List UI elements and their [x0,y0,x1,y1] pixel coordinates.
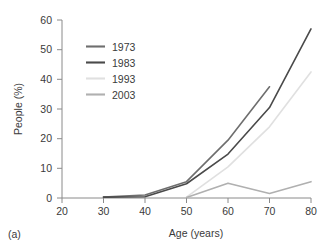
y-tick-0: 0 [46,192,62,204]
legend-item-1983: 1983 [86,57,136,69]
legend-label: 1993 [112,73,136,85]
x-tick-label: 80 [305,205,317,217]
x-tick-50: 50 [181,198,193,217]
y-tick-60: 60 [40,14,62,26]
y-tick-label: 30 [40,103,52,115]
x-tick-label: 40 [139,205,151,217]
panel-label: (a) [8,228,21,240]
line-chart: 0 10 20 30 40 50 [0,0,323,249]
x-tick-label: 60 [222,205,234,217]
legend-label: 2003 [112,89,136,101]
legend-label: 1983 [112,57,136,69]
y-tick-50: 50 [40,43,62,55]
legend-item-1973: 1973 [86,41,136,53]
y-axis-ticks: 0 10 20 30 40 50 [40,14,62,204]
y-tick-label: 40 [40,73,52,85]
legend: 1973 1983 1993 2003 [86,41,136,101]
x-axis-ticks: 20 30 40 50 60 70 [56,198,317,217]
x-tick-70: 70 [264,198,276,217]
y-tick-label: 20 [40,132,52,144]
series-group [104,29,312,198]
x-tick-60: 60 [222,198,234,217]
chart-figure: 0 10 20 30 40 50 [0,0,323,249]
y-tick-40: 40 [40,73,62,85]
x-axis-title: Age (years) [169,227,223,239]
y-tick-30: 30 [40,103,62,115]
y-tick-10: 10 [40,162,62,174]
x-tick-label: 50 [181,205,193,217]
x-tick-20: 20 [56,198,68,217]
y-tick-label: 10 [40,162,52,174]
series-line-1973 [104,87,270,197]
x-tick-40: 40 [139,198,151,217]
y-tick-label: 60 [40,14,52,26]
y-tick-label: 0 [46,192,52,204]
x-tick-30: 30 [98,198,110,217]
x-tick-label: 70 [264,205,276,217]
y-tick-20: 20 [40,132,62,144]
x-tick-label: 20 [56,205,68,217]
legend-label: 1973 [112,41,136,53]
x-tick-80: 80 [305,198,317,217]
y-tick-label: 50 [40,43,52,55]
legend-item-1993: 1993 [86,73,136,85]
y-axis-title: People (%) [12,83,24,135]
legend-item-2003: 2003 [86,89,136,101]
series-line-1993 [187,72,312,197]
x-tick-label: 30 [98,205,110,217]
